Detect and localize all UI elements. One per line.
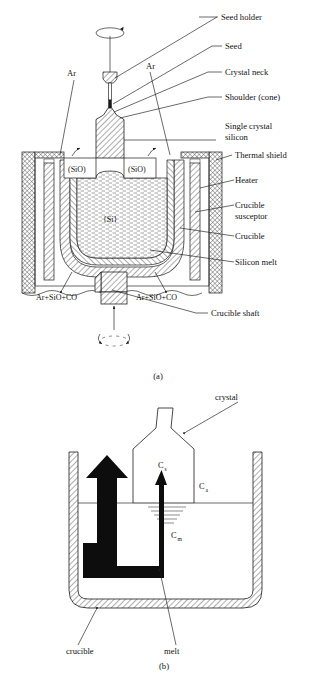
label-ar-right: Ar [146, 61, 155, 71]
label-single-crystal: Single crystal [225, 121, 273, 131]
meniscus-lines [148, 507, 186, 523]
label-sio-right: (SiO) [128, 165, 146, 174]
label-gas-left: Ar+SiO+CO [36, 293, 77, 302]
panel-a: Seed holder Seed Crystal neck Shoulder (… [22, 12, 287, 381]
label-seed: Seed [225, 41, 242, 51]
label-sio-left: (SiO) [68, 165, 86, 174]
label-melt-b: melt [164, 646, 180, 656]
label-thermal-shield: Thermal shield [235, 150, 287, 160]
figure-root: Seed holder Seed Crystal neck Shoulder (… [0, 0, 328, 673]
label-crucible-susceptor: Crucible [235, 200, 265, 210]
symbol-ca-subscript: a [206, 487, 209, 493]
caption-panel-a: (a) [153, 371, 163, 381]
czochralski-figure: Seed holder Seed Crystal neck Shoulder (… [0, 0, 328, 673]
symbol-ca-base: C [199, 482, 205, 491]
flow-arrow-large [83, 455, 128, 578]
crucible-shaft [95, 272, 130, 346]
label-crucible-shaft: Crucible shaft [211, 308, 260, 318]
seed-holder [103, 60, 117, 100]
concentration-cm: C m [171, 531, 183, 542]
label-melt-species: {Si} [103, 215, 118, 224]
label-seed-holder: Seed holder [221, 12, 262, 22]
panel-b: crystal crucible melt C s C a C m (b) [66, 392, 262, 671]
label-heater: Heater [235, 175, 258, 185]
label-crucible-susceptor-line2: susceptor [235, 211, 268, 221]
label-silicon-melt: Silicon melt [235, 257, 277, 267]
label-single-crystal-line2: silicon [225, 132, 249, 142]
label-shoulder-cone: Shoulder (cone) [225, 92, 280, 102]
symbol-cs-base: C [158, 461, 164, 470]
symbol-cm-base: C [171, 531, 177, 540]
symbol-cm-subscript: m [178, 536, 183, 542]
seed [108, 100, 111, 108]
seed-rotation-symbol [96, 27, 124, 60]
single-crystal-silicon [96, 108, 124, 158]
label-ar-left: Ar [67, 68, 76, 78]
symbol-cs-subscript: s [165, 466, 167, 472]
label-crucible-b: crucible [66, 646, 94, 656]
caption-panel-b: (b) [159, 661, 169, 671]
label-crucible: Crucible [235, 231, 265, 241]
label-crystal-b: crystal [215, 392, 239, 402]
label-gas-right: Ar+SiO+CO [136, 293, 177, 302]
label-crystal-neck: Crystal neck [225, 67, 269, 77]
concentration-ca: C a [199, 482, 209, 493]
silicon-melt [77, 171, 167, 258]
